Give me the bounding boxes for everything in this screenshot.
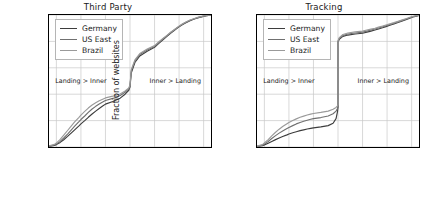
legend-item[interactable]: Germany bbox=[268, 23, 325, 34]
legend-color-swatch bbox=[268, 28, 285, 29]
panel-third-party: Third Party GermanyUS EastBrazil 0.00.20… bbox=[0, 0, 216, 199]
panel-tracking: Tracking GermanyUS EastBrazil 0.00.20.40… bbox=[216, 0, 432, 199]
y-axis-label: Fraction of websites bbox=[50, 14, 182, 146]
legend-item[interactable]: US East bbox=[268, 34, 325, 45]
panel-title: Third Party bbox=[0, 2, 216, 12]
legend-color-swatch bbox=[268, 50, 285, 51]
plot-annotation: Landing > Inner bbox=[263, 77, 314, 85]
legend-label: US East bbox=[290, 35, 319, 44]
plot-area: GermanyUS EastBrazil 0.00.20.40.60.81.0−… bbox=[256, 14, 420, 148]
figure: Third Party GermanyUS EastBrazil 0.00.20… bbox=[0, 0, 432, 199]
plot-annotation: Inner > Landing bbox=[358, 77, 409, 85]
legend: GermanyUS EastBrazil bbox=[263, 19, 331, 60]
legend-item[interactable]: Brazil bbox=[268, 45, 325, 56]
legend-label: Germany bbox=[290, 24, 325, 33]
legend-color-swatch bbox=[268, 39, 285, 40]
legend-label: Brazil bbox=[290, 46, 311, 55]
panel-title: Tracking bbox=[216, 2, 432, 12]
